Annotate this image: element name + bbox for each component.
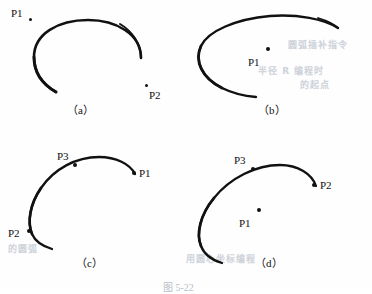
point-marker-p1 (132, 171, 136, 175)
point-label-p1: P1 (248, 57, 260, 68)
panel-caption-d: （d） (255, 254, 283, 270)
figure-caption: 图 5-22 (163, 279, 194, 294)
point-marker-p3 (73, 163, 77, 167)
point-marker-p1 (266, 47, 270, 51)
point-label-p1: P1 (139, 168, 151, 179)
point-label-p3: P3 (57, 151, 69, 162)
point-marker-p1 (29, 18, 32, 21)
point-label-p2: P2 (8, 228, 20, 239)
point-marker-p2 (312, 183, 316, 187)
point-marker-p3 (251, 167, 255, 171)
panel-caption-b: （b） (258, 101, 286, 117)
panel-a: P1 P2 （a） (0, 0, 186, 144)
point-marker-p2 (145, 84, 148, 87)
point-label-p2: P2 (149, 90, 161, 101)
point-label-p1: P1 (11, 8, 23, 19)
panel-a-arc (0, 0, 186, 144)
panel-caption-a: （a） (67, 101, 94, 117)
point-label-p2: P2 (320, 180, 332, 191)
panel-b: P1 （b） (186, 0, 372, 144)
panel-c: P1 P3 P2 （c） (0, 144, 186, 288)
point-label-p1: P1 (239, 218, 251, 229)
panel-b-arc (186, 0, 372, 144)
panel-caption-c: （c） (76, 254, 103, 270)
point-label-p3: P3 (234, 155, 246, 166)
point-marker-p1 (257, 208, 261, 212)
point-marker-p2 (27, 229, 31, 233)
panel-d: P2 P3 P1 （d） (186, 144, 372, 288)
